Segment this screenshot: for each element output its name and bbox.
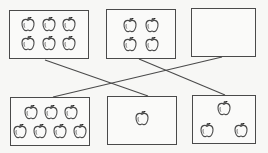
connection-line-top-2-to-bottom-3 <box>139 59 225 95</box>
connection-lines <box>0 0 268 153</box>
connection-line-top-3-to-bottom-1 <box>53 57 222 97</box>
matching-diagram <box>0 0 268 153</box>
